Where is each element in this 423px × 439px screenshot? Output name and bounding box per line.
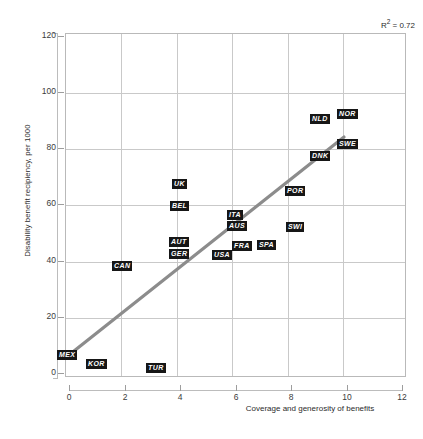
point-label-bel[interactable]: BEL xyxy=(170,201,189,211)
y-tick-label-120: 120 xyxy=(16,31,56,40)
x-tick-label-4: 4 xyxy=(160,392,200,402)
y-tick-60 xyxy=(58,204,64,205)
x-tick-label-2: 2 xyxy=(105,392,145,402)
x-tick-6 xyxy=(236,385,237,391)
y-axis-cap-bottom xyxy=(53,378,58,379)
x-tick-label-12: 12 xyxy=(382,392,422,402)
y-tick-label-100: 100 xyxy=(16,87,56,96)
gridline-y-100 xyxy=(66,93,405,94)
x-tick-12 xyxy=(402,385,403,391)
y-tick-120 xyxy=(58,36,64,37)
point-label-ger[interactable]: GER xyxy=(169,249,189,259)
gridline-y-60 xyxy=(66,205,405,206)
chart-figure: Disability benefit recipiency, per 1000 … xyxy=(0,0,423,439)
x-axis-title: Coverage and generosity of benefits xyxy=(200,404,420,413)
point-label-aus[interactable]: AUS xyxy=(227,221,247,231)
point-label-dnk[interactable]: DNK xyxy=(310,151,330,161)
x-tick-label-6: 6 xyxy=(216,392,256,402)
x-tick-label-8: 8 xyxy=(271,392,311,402)
x-tick-label-0: 0 xyxy=(49,392,89,402)
y-tick-100 xyxy=(58,92,64,93)
y-tick-label-40: 40 xyxy=(16,256,56,265)
x-tick-8 xyxy=(291,385,292,391)
point-label-nld[interactable]: NLD xyxy=(310,114,330,124)
y-tick-0 xyxy=(58,373,64,374)
point-label-mex[interactable]: MEX xyxy=(57,350,77,360)
x-tick-2 xyxy=(125,385,126,391)
point-label-usa[interactable]: USA xyxy=(212,250,232,260)
x-tick-10 xyxy=(347,385,348,391)
y-tick-80 xyxy=(58,148,64,149)
point-label-kor[interactable]: KOR xyxy=(86,359,107,369)
y-tick-label-0: 0 xyxy=(16,368,56,377)
gridline-y-80 xyxy=(66,149,405,150)
point-label-fra[interactable]: FRA xyxy=(232,241,252,251)
r-squared-annotation: R2 = 0.72 xyxy=(381,18,415,30)
point-label-spa[interactable]: SPA xyxy=(257,240,276,250)
y-axis-spine xyxy=(57,33,58,378)
y-tick-40 xyxy=(58,261,64,262)
point-label-ita[interactable]: ITA xyxy=(227,210,243,220)
x-tick-0 xyxy=(69,385,70,391)
y-tick-label-20: 20 xyxy=(16,312,56,321)
point-label-can[interactable]: CAN xyxy=(112,261,132,271)
point-label-nor[interactable]: NOR xyxy=(337,109,358,119)
point-label-uk[interactable]: UK xyxy=(172,179,187,189)
y-tick-20 xyxy=(58,317,64,318)
point-label-aut[interactable]: AUT xyxy=(169,237,189,247)
r-squared-value: = 0.72 xyxy=(390,21,415,30)
x-tick-4 xyxy=(180,385,181,391)
gridline-y-20 xyxy=(66,318,405,319)
plot-area xyxy=(65,33,406,377)
point-label-tur[interactable]: TUR xyxy=(146,363,166,373)
point-label-swe[interactable]: SWE xyxy=(337,139,358,149)
y-tick-label-80: 80 xyxy=(16,143,56,152)
point-label-por[interactable]: POR xyxy=(285,186,305,196)
y-axis-title: Disability benefit recipiency, per 1000 xyxy=(23,76,32,306)
y-tick-label-60: 60 xyxy=(16,199,56,208)
point-label-swi[interactable]: SWI xyxy=(286,222,304,232)
x-tick-label-10: 10 xyxy=(327,392,367,402)
